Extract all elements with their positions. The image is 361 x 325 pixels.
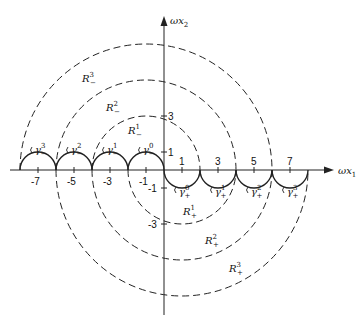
y-axis-label: ωx2 (170, 15, 188, 29)
region-label-R-plus-1: R1+ (182, 204, 197, 220)
contour-label-gamma-minus-1: γ1− (107, 142, 118, 158)
y-tick-label: 1 (168, 147, 174, 158)
region-boundary-upper-2 (56, 80, 236, 170)
x-axis (10, 167, 334, 174)
contour-label-gamma-plus-0: γ0+ (179, 184, 190, 200)
y-tick-label: 3 (168, 111, 174, 122)
contour-label-gamma-plus-1: γ1+ (215, 184, 226, 200)
x-tick-label: 7 (287, 156, 293, 167)
contour-label-gamma-minus-0: γ0− (143, 142, 154, 158)
contour-label-gamma-plus-3: γ3+ (287, 184, 298, 200)
contour-label-gamma-minus-2: γ2− (71, 142, 82, 158)
region-label-R-minus-3: R3− (81, 71, 96, 87)
contour-label-gamma-minus-3: γ3− (35, 142, 46, 158)
x-tick-label: -7 (31, 176, 40, 187)
region-label-R-plus-2: R2+ (204, 233, 219, 249)
x-tick-label: -3 (103, 176, 112, 187)
region-label-R-minus-2: R2− (105, 100, 120, 116)
x-tick-label: 3 (215, 156, 221, 167)
x-tick-label: -5 (67, 176, 76, 187)
y-tick-label: -3 (148, 219, 157, 230)
y-tick-label: -1 (148, 183, 157, 194)
region-boundary-lower-2 (92, 170, 272, 260)
x-tick-label: 1 (179, 156, 185, 167)
contour-label-gamma-plus-2: γ2+ (251, 184, 262, 200)
region-label-R-minus-1: R1− (127, 123, 142, 139)
x-axis-label: ωx1 (338, 165, 356, 179)
x-tick-label: 5 (251, 156, 257, 167)
x-tick-label: -1 (139, 176, 148, 187)
contour-diagram: ωx1 ωx2 -7 -5 -3 -1 1 3 5 7 3 1 -1 -3 (0, 0, 361, 325)
region-label-R-plus-3: R3+ (228, 261, 243, 277)
